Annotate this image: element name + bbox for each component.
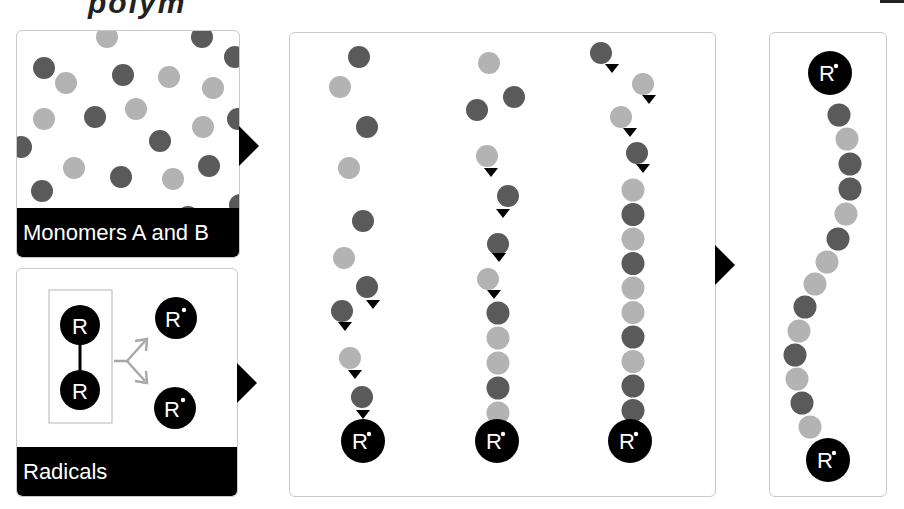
radical-dot xyxy=(501,432,505,436)
initiator-label-top: R xyxy=(72,314,88,339)
monomer-a xyxy=(149,130,171,152)
corner-fragment xyxy=(880,0,904,3)
bond-arrowhead-icon xyxy=(492,253,506,262)
monomer-a xyxy=(590,42,612,64)
monomer-b xyxy=(836,128,859,151)
monomer-b xyxy=(487,352,510,375)
monomer-b xyxy=(622,277,645,300)
monomer-b xyxy=(339,347,361,369)
radical-dot xyxy=(367,432,371,436)
radicals-label: Radicals xyxy=(17,447,237,496)
monomer-a xyxy=(784,344,807,367)
monomer-a xyxy=(198,155,220,177)
radical-dot xyxy=(634,432,638,436)
monomer-a xyxy=(356,116,378,138)
monomer-a xyxy=(487,377,510,400)
monomer-b xyxy=(476,145,498,167)
monomer-b xyxy=(338,157,360,179)
bond-arrowhead-icon xyxy=(348,370,362,379)
monomer-b xyxy=(610,106,632,128)
monomer-a xyxy=(356,276,378,298)
monomer-b xyxy=(835,203,858,226)
bond-arrowhead-icon xyxy=(623,128,637,137)
radical-label: R xyxy=(486,429,502,454)
bond-arrowhead-icon xyxy=(605,64,619,73)
monomer-a xyxy=(466,99,488,121)
monomers-label: Monomers A and B xyxy=(17,208,239,257)
monomers-panel: Monomers A and B xyxy=(16,30,240,258)
monomer-a xyxy=(497,185,519,207)
propagation-panel: RRR xyxy=(289,32,716,497)
arrow-right-icon xyxy=(237,363,257,403)
bond-arrowhead-icon xyxy=(366,300,380,309)
radical-dot xyxy=(834,64,838,68)
monomer-a xyxy=(794,296,817,319)
bond-arrowhead-icon xyxy=(496,209,510,218)
monomer-b xyxy=(477,268,499,290)
monomer-a xyxy=(352,210,374,232)
monomer-b xyxy=(816,251,839,274)
monomer-a xyxy=(224,46,240,68)
monomer-a xyxy=(839,153,862,176)
monomer-b xyxy=(192,116,214,138)
initiator-label-bottom: R xyxy=(72,379,88,404)
monomer-a xyxy=(827,228,850,251)
bond-arrowhead-icon xyxy=(642,95,656,104)
monomer-b xyxy=(478,52,500,74)
monomer-b xyxy=(487,327,510,350)
arrow-right-icon xyxy=(239,126,259,166)
monomer-b xyxy=(55,72,77,94)
monomer-a xyxy=(791,392,814,415)
monomer-b xyxy=(125,98,147,120)
bond-arrowhead-icon xyxy=(356,410,370,419)
monomer-b xyxy=(622,179,645,202)
monomer-a xyxy=(487,233,509,255)
monomer-a xyxy=(487,302,510,325)
monomer-a xyxy=(622,326,645,349)
monomer-a xyxy=(33,57,55,79)
radicals-panel: R R R R Radicals xyxy=(16,268,238,497)
monomer-b xyxy=(786,368,809,391)
monomer-b xyxy=(162,168,184,190)
monomer-a xyxy=(31,180,53,202)
monomer-b xyxy=(804,273,827,296)
monomer-a xyxy=(348,46,370,68)
monomer-b xyxy=(96,31,118,48)
monomer-b xyxy=(622,350,645,373)
monomer-a xyxy=(110,166,132,188)
monomer-b xyxy=(788,320,811,343)
monomer-a xyxy=(626,142,648,164)
monomer-a xyxy=(622,375,645,398)
propagation-chains: RRR xyxy=(290,33,716,497)
bond-arrowhead-icon xyxy=(636,164,650,173)
monomer-a xyxy=(331,300,353,322)
monomer-a xyxy=(828,104,851,127)
monomer-a xyxy=(622,203,645,226)
title-fragment: polym xyxy=(88,0,186,20)
monomer-b xyxy=(622,228,645,251)
monomer-a xyxy=(84,106,106,128)
arrow-right-icon xyxy=(715,245,735,285)
radical-label: R xyxy=(819,61,835,86)
monomer-b xyxy=(33,108,55,130)
monomer-a xyxy=(17,136,32,158)
monomer-a xyxy=(503,86,525,108)
monomer-b xyxy=(329,76,351,98)
monomer-a xyxy=(112,64,134,86)
bond-arrowhead-icon xyxy=(487,290,501,299)
bond-arrowhead-icon xyxy=(338,322,352,331)
monomer-b xyxy=(622,301,645,324)
split-arrow-icon xyxy=(114,339,147,383)
monomer-a xyxy=(191,31,213,48)
radical-dot xyxy=(832,451,836,455)
monomer-b xyxy=(63,157,85,179)
monomer-b xyxy=(632,73,654,95)
monomer-a xyxy=(622,399,645,422)
monomer-a xyxy=(622,252,645,275)
radical-bottom-dot xyxy=(181,398,185,402)
bond-arrowhead-icon xyxy=(484,168,498,177)
radical-label: R xyxy=(619,429,635,454)
monomer-b xyxy=(333,247,355,269)
radical-label: R xyxy=(352,429,368,454)
monomer-b xyxy=(202,77,224,99)
